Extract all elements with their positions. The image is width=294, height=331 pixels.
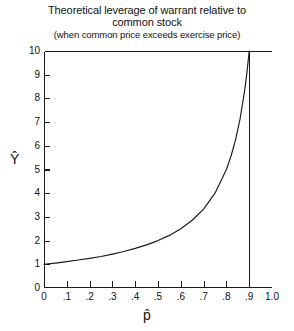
x-tick-label: .9 (245, 292, 253, 302)
y-tick-label: 5 (34, 165, 40, 175)
curve-path (44, 51, 249, 264)
x-tick-label: .1 (63, 292, 71, 302)
leverage-curve (44, 51, 272, 288)
y-tick-label: 1 (34, 259, 40, 269)
chart-figure: Theoretical leverage of warrant relative… (0, 0, 294, 331)
y-tick-label: 0 (34, 283, 40, 293)
y-axis-tick-labels: 012345678910 (16, 51, 40, 288)
y-tick-label: 8 (34, 93, 40, 103)
plot-area (44, 51, 272, 288)
chart-title-line-1: Theoretical leverage of warrant relative… (0, 4, 294, 16)
x-tick-label: .4 (131, 292, 139, 302)
x-tick-label: 0 (41, 292, 47, 302)
chart-title-block: Theoretical leverage of warrant relative… (0, 4, 294, 40)
x-tick-label: .2 (85, 292, 93, 302)
y-tick-label: 7 (34, 117, 40, 127)
x-tick-label: .7 (199, 292, 207, 302)
x-axis-label: p̂ (0, 308, 294, 322)
x-tick-label: .3 (108, 292, 116, 302)
x-tick-label: 1.0 (265, 292, 279, 302)
y-tick-label: 10 (29, 46, 40, 56)
y-axis-label: Ŷ (10, 152, 19, 166)
y-tick-label: 9 (34, 70, 40, 80)
y-tick-label: 4 (34, 188, 40, 198)
chart-title-line-2: common stock (0, 16, 294, 28)
x-tick-label: .6 (177, 292, 185, 302)
y-tick-label: 3 (34, 212, 40, 222)
x-tick-label: .8 (222, 292, 230, 302)
x-tick-label: .5 (154, 292, 162, 302)
chart-subtitle: (when common price exceeds exercise pric… (0, 30, 294, 41)
y-tick-label: 6 (34, 141, 40, 151)
x-axis-tick-labels: 0.1.2.3.4.5.6.7.8.91.0 (44, 292, 272, 306)
y-tick-label: 2 (34, 236, 40, 246)
